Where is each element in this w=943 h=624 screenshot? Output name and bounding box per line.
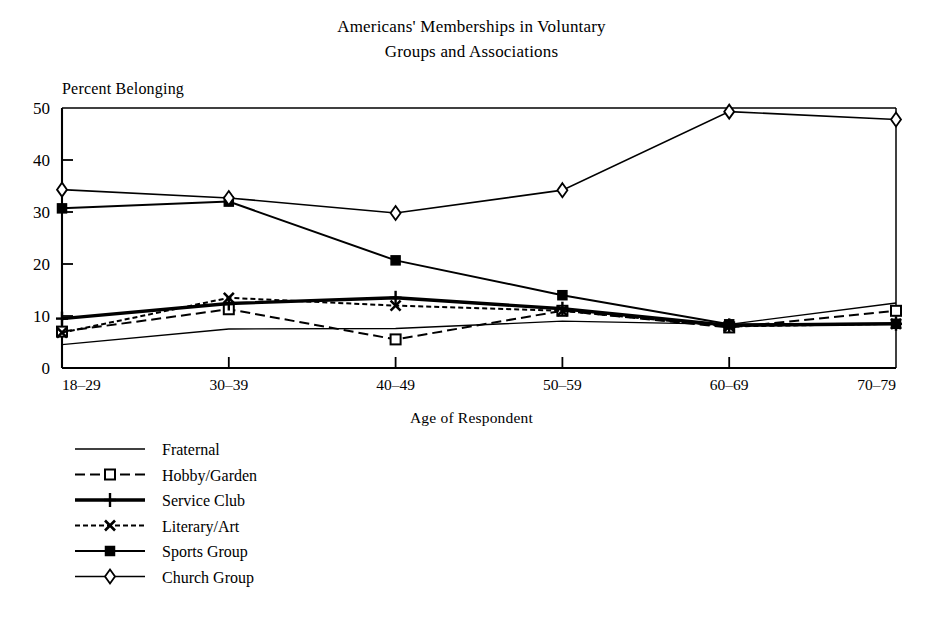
chart-figure: Americans' Memberships in Voluntary Grou… — [0, 0, 943, 624]
legend-label: Fraternal — [162, 441, 220, 458]
data-point-marker — [104, 493, 116, 507]
legend-label: Hobby/Garden — [162, 467, 257, 485]
legend-item-church-group[interactable]: Church Group — [75, 569, 254, 587]
legend-item-sports-group[interactable]: Sports Group — [75, 543, 248, 561]
legend-item-literary-art[interactable]: Literary/Art — [75, 518, 240, 536]
data-point-marker — [105, 470, 115, 480]
legend-label: Sports Group — [162, 543, 248, 561]
chart-legend: FraternalHobby/GardenService ClubLiterar… — [0, 0, 943, 624]
legend-item-hobby-garden[interactable]: Hobby/Garden — [75, 467, 257, 485]
data-point-marker — [105, 570, 115, 584]
data-point-marker — [105, 521, 115, 531]
legend-label: Service Club — [162, 492, 245, 509]
legend-label: Literary/Art — [162, 518, 240, 536]
legend-label: Church Group — [162, 569, 254, 587]
legend-item-service-club[interactable]: Service Club — [75, 492, 245, 509]
legend-item-fraternal[interactable]: Fraternal — [75, 441, 220, 458]
data-point-marker — [106, 547, 115, 556]
